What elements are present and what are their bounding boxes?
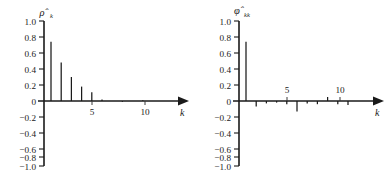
acf-xtick-5: 5 — [90, 107, 95, 117]
acf-ytick-2: 0.8 — [25, 33, 37, 43]
acf-ytick-1: 1.0 — [25, 17, 37, 27]
acf-xtick-10: 10 — [140, 107, 150, 117]
pacf-xtick-10: 10 — [335, 85, 345, 95]
pacf-ytick-11: −1.0 — [214, 162, 231, 172]
pacf-panel: 1.0 0.8 0.6 0.4 0.2 0 −0.2 −0.4 −0.6 −0.… — [195, 0, 390, 187]
pacf-x-axis-title: k — [375, 107, 380, 118]
pacf-ytick-4: 0.4 — [220, 65, 232, 75]
acf-panel: 1.0 0.8 0.6 0.4 0.2 0 −0.2 −0.4 −0.6 −0.… — [0, 0, 195, 187]
pacf-ytick-5: 0.2 — [220, 81, 232, 91]
pacf-ytick-7: −0.2 — [214, 113, 231, 123]
acf-ytick-3: 0.6 — [25, 49, 37, 59]
acf-y-axis-title: ρ̂ k — [38, 7, 53, 19]
acf-y-axis-title-symbol: ρ̂ — [38, 7, 48, 18]
pacf-ytick-3: 0.6 — [220, 49, 232, 59]
pacf-ytick-8: −0.4 — [214, 129, 231, 139]
acf-plot: 1.0 0.8 0.6 0.4 0.2 0 −0.2 −0.4 −0.6 −0.… — [0, 0, 195, 187]
acf-ytick-7: −0.2 — [19, 113, 36, 123]
pacf-y-axis-title: φ̂ kk — [234, 5, 250, 18]
pacf-ytick-6: 0 — [226, 97, 231, 107]
pacf-y-tick-labels: 1.0 0.8 0.6 0.4 0.2 0 −0.2 −0.4 −0.6 −0.… — [214, 17, 231, 172]
acf-stems — [51, 42, 163, 102]
acf-x-axis-title: k — [180, 107, 185, 118]
pacf-x-tick-labels: 5 10 — [285, 85, 345, 95]
pacf-plot: 1.0 0.8 0.6 0.4 0.2 0 −0.2 −0.4 −0.6 −0.… — [195, 0, 391, 187]
acf-ytick-11: −1.0 — [19, 162, 36, 172]
pacf-y-axis-title-subscript: kk — [244, 11, 250, 18]
pacf-ytick-1: 1.0 — [220, 17, 232, 27]
acf-y-axis-title-subscript: k — [50, 12, 53, 19]
acf-ytick-6: 0 — [31, 97, 36, 107]
pacf-xtick-5: 5 — [285, 85, 290, 95]
acf-ytick-4: 0.4 — [25, 65, 37, 75]
acf-x-tick-labels: 5 10 — [90, 107, 150, 117]
acf-ytick-5: 0.2 — [25, 81, 37, 91]
acf-y-tick-labels: 1.0 0.8 0.6 0.4 0.2 0 −0.2 −0.4 −0.6 −0.… — [19, 17, 36, 172]
pacf-ytick-2: 0.8 — [220, 33, 232, 43]
acf-ytick-8: −0.4 — [19, 129, 36, 139]
pacf-y-axis-title-symbol: φ̂ — [234, 5, 244, 16]
acf-pacf-figure: 1.0 0.8 0.6 0.4 0.2 0 −0.2 −0.4 −0.6 −0.… — [0, 0, 391, 187]
